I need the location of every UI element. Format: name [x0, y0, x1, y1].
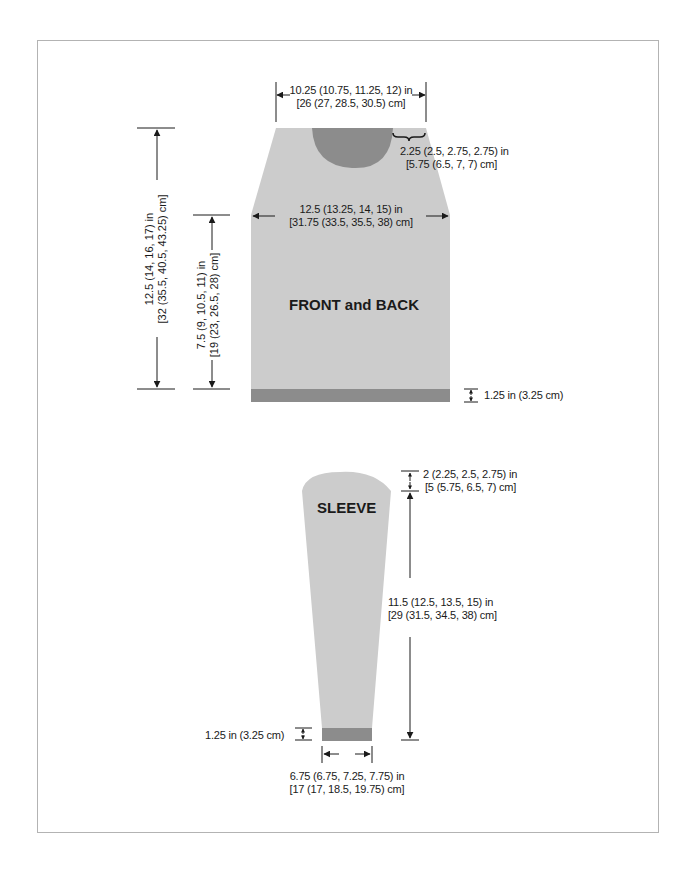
- body-ribbing: [251, 389, 450, 402]
- total-length-cm: [32 (35.5, 40.5, 43.25) cm]: [156, 184, 169, 334]
- sleeve-length-cm: [29 (31.5, 34.5, 38) cm]: [388, 609, 497, 622]
- body-rib-label: 1.25 in (3.25 cm): [484, 389, 563, 402]
- body-rib-dimension: [464, 389, 478, 402]
- sleeve-length-in: 11.5 (12.5, 13.5, 15) in: [388, 596, 497, 609]
- neck-width-cm: [26 (27, 28.5, 30.5) cm]: [276, 97, 426, 110]
- cuff-rib-dimension: [295, 728, 312, 740]
- total-length-in: 12.5 (14, 16, 17) in: [143, 184, 156, 334]
- cuff-width-cm: [17 (17, 18.5, 19.75) cm]: [272, 783, 422, 796]
- sleeve-length-label: 11.5 (12.5, 13.5, 15) in [29 (31.5, 34.5…: [388, 596, 497, 622]
- shoulder-width-cm: [5.75 (6.5, 7, 7) cm]: [400, 158, 509, 171]
- cap-height-cm: [5 (5.75, 6.5, 7) cm]: [423, 481, 517, 494]
- chest-width-in: 12.5 (13.25, 14, 15) in: [276, 203, 426, 216]
- cap-height-label: 2 (2.25, 2.5, 2.75) in [5 (5.75, 6.5, 7)…: [423, 468, 517, 494]
- neck-width-in: 10.25 (10.75, 11.25, 12) in: [276, 84, 426, 97]
- chest-width-cm: [31.75 (33.5, 35.5, 38) cm]: [276, 216, 426, 229]
- front-back-title: FRONT and BACK: [289, 296, 419, 313]
- shoulder-width-label: 2.25 (2.5, 2.75, 2.75) in [5.75 (6.5, 7,…: [400, 145, 509, 171]
- neck-width-label: 10.25 (10.75, 11.25, 12) in [26 (27, 28.…: [276, 84, 426, 110]
- cap-height-dimension: [401, 471, 419, 491]
- body-length-label: 7.5 (9, 10.5, 11) in [19 (23, 26.5, 28) …: [195, 240, 223, 370]
- chest-width-label: 12.5 (13.25, 14, 15) in [31.75 (33.5, 35…: [276, 203, 426, 229]
- cuff-width-dimension: [322, 746, 372, 763]
- sleeve-title: SLEEVE: [317, 499, 376, 516]
- body-length-in: 7.5 (9, 10.5, 11) in: [195, 240, 208, 370]
- sleeve-cuff: [322, 728, 372, 741]
- cuff-width-label: 6.75 (6.75, 7.25, 7.75) in [17 (17, 18.5…: [272, 770, 422, 796]
- schematic-drawing: [0, 0, 698, 874]
- total-length-label: 12.5 (14, 16, 17) in [32 (35.5, 40.5, 43…: [143, 184, 171, 334]
- body-length-cm: [19 (23, 26.5, 28) cm]: [208, 240, 221, 370]
- shoulder-width-in: 2.25 (2.5, 2.75, 2.75) in: [400, 145, 509, 158]
- cuff-width-in: 6.75 (6.75, 7.25, 7.75) in: [272, 770, 422, 783]
- cuff-rib-label: 1.25 in (3.25 cm): [205, 729, 284, 742]
- cap-height-in: 2 (2.25, 2.5, 2.75) in: [423, 468, 517, 481]
